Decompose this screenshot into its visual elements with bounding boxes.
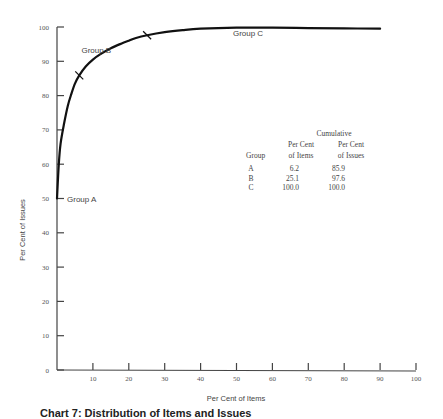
table-cell-issues: 85.9 [332,164,345,173]
x-tick-label: 90 [377,375,385,383]
y-axis: 0102030405060708090100 [39,24,65,375]
x-tick-label: 10 [89,375,97,383]
x-tick-label: 60 [269,375,277,383]
y-axis-title: Per Cent of Issues [18,199,27,261]
group-boundary-markers [75,31,151,79]
y-tick-label: 70 [42,126,50,134]
y-tick-label: 50 [42,195,50,203]
y-tick-label: 10 [42,332,50,340]
table-cell-items: 25.1 [286,174,299,183]
table-cell-issues: 100.0 [328,183,345,192]
y-tick-label: 20 [42,298,50,306]
pareto-chart: 0102030405060708090100 10203040506070809… [0,0,443,419]
table-cell-group: B [248,174,253,183]
figure-caption: Chart 7: Distribution of Items and Issue… [40,407,251,419]
group-labels: Group AGroup BGroup C [67,29,263,203]
y-tick-label: 0 [46,367,50,375]
table-header-group: Cumulative [317,129,353,138]
y-tick-label: 60 [42,161,50,169]
table-cell-items: 100.0 [282,183,299,192]
table-column-header: Per Cent [288,140,315,149]
y-tick-label: 90 [42,58,50,66]
x-tick-label: 100 [411,375,422,383]
table-column-header: Group [246,151,265,160]
table-column-header: of Items [289,151,314,160]
group-label: Group C [233,29,263,38]
table-column-header: of Issues [338,151,365,160]
table-cell-items: 6.2 [290,164,300,173]
y-tick-label: 40 [42,229,50,237]
table-cell-issues: 97.6 [332,174,345,183]
x-tick-label: 20 [125,375,133,383]
table-cell-group: C [248,183,253,192]
x-axis-line [57,370,416,371]
y-tick-label: 30 [42,264,50,272]
x-axis-title: Per Cent of Items [207,394,266,403]
table-column-header: Per Cent [338,140,365,149]
x-tick-label: 70 [305,375,313,383]
x-tick-label: 30 [161,375,169,383]
x-tick-label: 40 [197,375,205,383]
y-tick-label: 100 [39,24,50,32]
x-tick-label: 80 [341,375,349,383]
table-cell-group: A [248,164,254,173]
y-tick-label: 80 [42,92,50,100]
cumulative-table: CumulativeGroupPer Centof ItemsPer Cento… [246,129,365,192]
x-axis: 102030405060708090100 [57,363,422,383]
x-tick-label: 50 [233,375,241,383]
group-label: Group B [81,46,111,55]
group-label: Group A [67,195,97,204]
